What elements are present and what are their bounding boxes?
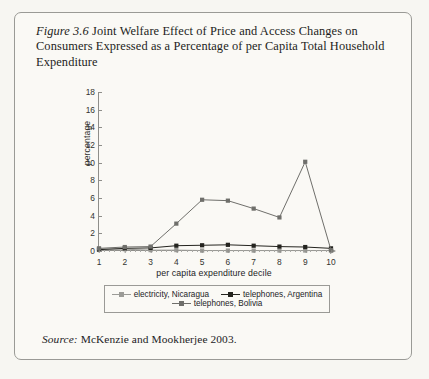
- x-axis-tick-9: 9: [303, 250, 308, 267]
- x-axis-minor-tick: [264, 250, 265, 252]
- x-axis-minor-tick: [114, 250, 115, 252]
- x-axis-minor-tick: [120, 250, 121, 252]
- series-marker: [277, 215, 281, 219]
- legend-swatch-icon: [112, 290, 131, 299]
- chart-legend: electricity, Nicaraguatelephones, Argent…: [104, 285, 330, 313]
- x-axis-minor-tick: [187, 250, 188, 252]
- series-marker: [303, 245, 307, 249]
- series-marker: [226, 199, 230, 203]
- x-axis-minor-tick: [295, 250, 296, 252]
- series-marker: [303, 160, 307, 164]
- y-axis-tick-4: 4: [90, 211, 99, 221]
- legend-swatch-icon: [221, 290, 240, 299]
- x-axis-tick-5: 5: [200, 250, 205, 267]
- x-axis-minor-tick: [166, 250, 167, 252]
- legend-row: electricity, Nicaraguatelephones, Argent…: [105, 290, 329, 299]
- y-axis-tick-8: 8: [90, 175, 99, 185]
- x-axis-minor-tick: [109, 250, 110, 252]
- x-axis-minor-tick: [300, 250, 301, 252]
- y-axis-tick-14: 14: [86, 122, 99, 132]
- series-marker: [252, 207, 256, 211]
- x-axis-minor-tick: [316, 250, 317, 252]
- legend-swatch-icon: [172, 299, 191, 308]
- x-axis-minor-tick: [181, 250, 182, 252]
- figure-number: Figure 3.6: [36, 24, 89, 38]
- legend-item[interactable]: telephones, Argentina: [221, 290, 322, 299]
- legend-label: telephones, Bolivia: [194, 299, 263, 308]
- x-axis-minor-tick: [285, 250, 286, 252]
- legend-label: electricity, Nicaragua: [134, 290, 209, 299]
- x-axis-tick-7: 7: [251, 250, 256, 267]
- series-marker: [252, 244, 256, 248]
- series-marker: [174, 222, 178, 226]
- x-axis-tick-6: 6: [226, 250, 231, 267]
- x-axis-minor-tick: [161, 250, 162, 252]
- series-marker: [174, 244, 178, 248]
- y-axis-tick-10: 10: [86, 158, 99, 168]
- x-axis-tick-8: 8: [277, 250, 282, 267]
- x-axis-minor-tick: [135, 250, 136, 252]
- series-line: [99, 249, 331, 251]
- x-axis-tick-2: 2: [122, 250, 127, 267]
- x-axis-minor-tick: [269, 250, 270, 252]
- x-axis-minor-tick: [223, 250, 224, 252]
- y-axis-tick-18: 18: [86, 87, 99, 97]
- chart: percentage 02468101214161812345678910 pe…: [58, 86, 348, 276]
- x-axis-minor-tick: [243, 250, 244, 252]
- x-axis-minor-tick: [310, 250, 311, 252]
- series-marker: [226, 243, 230, 247]
- x-axis-minor-tick: [249, 250, 250, 252]
- x-axis-minor-tick: [156, 250, 157, 252]
- source-note: Source: McKenzie and Mookherjee 2003.: [42, 333, 237, 345]
- x-axis-minor-tick: [197, 250, 198, 252]
- series-marker: [277, 244, 281, 248]
- y-axis-tick-2: 2: [90, 228, 99, 238]
- x-axis-minor-tick: [130, 250, 131, 252]
- figure-title: Figure 3.6 Joint Welfare Effect of Price…: [36, 24, 394, 70]
- x-axis-minor-tick: [259, 250, 260, 252]
- series-marker: [123, 245, 127, 249]
- x-axis-minor-tick: [207, 250, 208, 252]
- legend-item[interactable]: telephones, Bolivia: [172, 299, 263, 308]
- legend-row: telephones, Bolivia: [105, 299, 329, 308]
- x-axis-minor-tick: [212, 250, 213, 252]
- series-marker: [200, 243, 204, 247]
- figure-title-text: Joint Welfare Effect of Price and Access…: [36, 24, 384, 69]
- x-axis-tick-3: 3: [148, 250, 153, 267]
- x-axis-minor-tick: [218, 250, 219, 252]
- series-marker: [148, 244, 152, 248]
- y-axis-tick-12: 12: [86, 140, 99, 150]
- x-axis-minor-tick: [171, 250, 172, 252]
- y-axis-tick-6: 6: [90, 193, 99, 203]
- x-axis-minor-tick: [274, 250, 275, 252]
- figure-page: Figure 3.6 Joint Welfare Effect of Price…: [0, 0, 429, 379]
- x-axis-minor-tick: [290, 250, 291, 252]
- source-text: McKenzie and Mookherjee 2003.: [78, 333, 237, 345]
- x-axis-label: per capita expenditure decile: [98, 268, 330, 278]
- y-axis-tick-16: 16: [86, 105, 99, 115]
- x-axis-minor-tick: [192, 250, 193, 252]
- source-label: Source:: [42, 333, 78, 345]
- legend-item[interactable]: electricity, Nicaragua: [112, 290, 209, 299]
- x-axis-minor-tick: [238, 250, 239, 252]
- x-axis-minor-tick: [104, 250, 105, 252]
- x-axis-tick-10: 10: [326, 250, 335, 267]
- legend-label: telephones, Argentina: [243, 290, 322, 299]
- x-axis-minor-tick: [321, 250, 322, 252]
- x-axis-minor-tick: [140, 250, 141, 252]
- x-axis-tick-1: 1: [97, 250, 102, 267]
- series-line: [99, 162, 331, 250]
- series-lines: [99, 92, 331, 251]
- x-axis-minor-tick: [233, 250, 234, 252]
- x-axis-tick-4: 4: [174, 250, 179, 267]
- plot-area: 02468101214161812345678910: [98, 92, 330, 251]
- series-marker: [200, 198, 204, 202]
- x-axis-minor-tick: [145, 250, 146, 252]
